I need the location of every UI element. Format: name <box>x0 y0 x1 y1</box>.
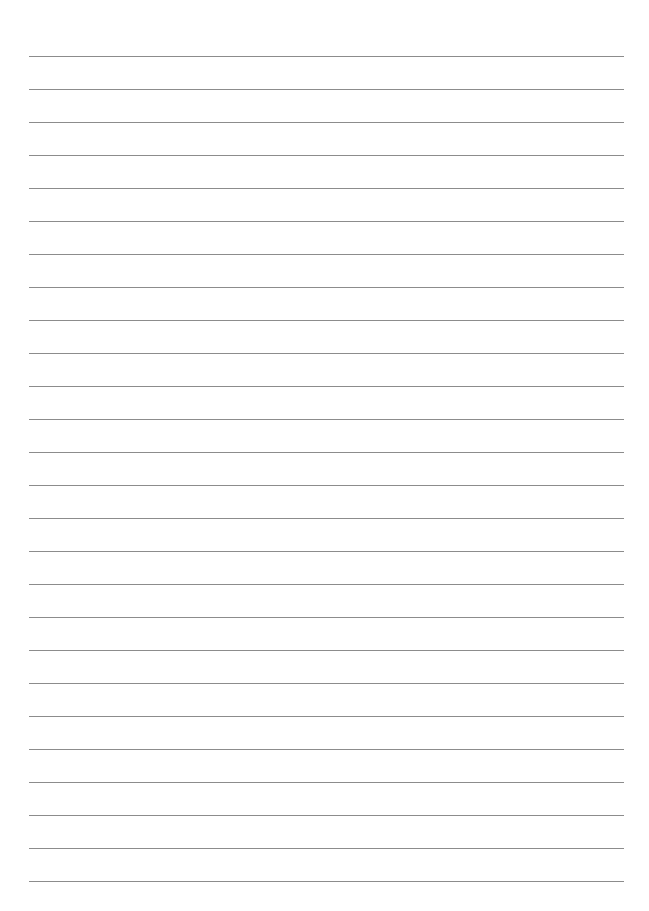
ruled-line <box>29 716 624 717</box>
ruled-line <box>29 650 624 651</box>
ruled-line <box>29 485 624 486</box>
ruled-line <box>29 221 624 222</box>
lined-paper-page <box>0 0 649 911</box>
ruled-line <box>29 386 624 387</box>
ruled-line <box>29 452 624 453</box>
ruled-line <box>29 551 624 552</box>
ruled-line <box>29 815 624 816</box>
ruled-line <box>29 56 624 57</box>
ruled-line <box>29 881 624 882</box>
ruled-line <box>29 617 624 618</box>
ruled-line <box>29 782 624 783</box>
ruled-line <box>29 518 624 519</box>
ruled-line <box>29 584 624 585</box>
ruled-line <box>29 419 624 420</box>
ruled-line <box>29 749 624 750</box>
ruled-line <box>29 353 624 354</box>
ruled-line <box>29 848 624 849</box>
ruled-line <box>29 155 624 156</box>
ruled-line <box>29 287 624 288</box>
ruled-line <box>29 89 624 90</box>
ruled-line <box>29 188 624 189</box>
ruled-line <box>29 254 624 255</box>
ruled-line <box>29 683 624 684</box>
ruled-line <box>29 320 624 321</box>
ruled-line <box>29 122 624 123</box>
